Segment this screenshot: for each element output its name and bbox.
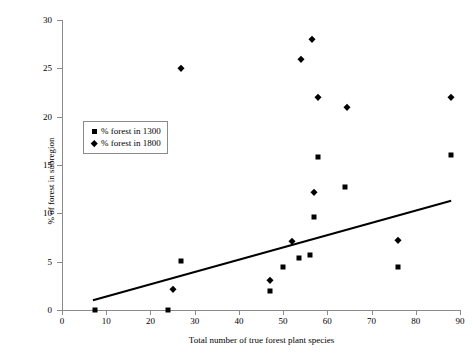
legend-item-forest-1300: % forest in 1300: [89, 125, 161, 137]
x-tick-label: 0: [60, 317, 65, 326]
x-tick: 10: [106, 310, 107, 315]
data-point: [267, 288, 272, 293]
legend-label: % forest in 1300: [101, 126, 161, 137]
scatter-chart: % of forest in subregion Total number of…: [0, 0, 473, 361]
x-tick: 40: [239, 310, 240, 315]
x-tick: 90: [460, 310, 461, 315]
data-point: [449, 153, 454, 158]
x-tick-label: 90: [456, 317, 465, 326]
x-tick-label: 50: [279, 317, 288, 326]
x-tick: 60: [327, 310, 328, 315]
data-point: [396, 265, 401, 270]
legend-item-forest-1800: % forest in 1800: [89, 137, 161, 149]
data-point: [281, 265, 286, 270]
y-tick-label: 10: [43, 209, 52, 218]
x-tick-label: 80: [411, 317, 420, 326]
y-tick-label: 15: [43, 161, 52, 170]
data-point: [179, 258, 184, 263]
data-point: [296, 255, 301, 260]
y-tick-label: 0: [48, 306, 53, 315]
data-point: [312, 215, 317, 220]
x-tick-label: 60: [323, 317, 332, 326]
y-tick-label: 5: [48, 257, 53, 266]
legend-label: % forest in 1800: [101, 138, 161, 149]
x-tick: 70: [372, 310, 373, 315]
data-point: [316, 155, 321, 160]
x-tick: 30: [195, 310, 196, 315]
x-tick-label: 10: [102, 317, 111, 326]
legend: % forest in 1300 % forest in 1800: [83, 121, 168, 154]
y-tick-label: 20: [43, 112, 52, 121]
plot-area: 051015202530 0102030405060708090: [62, 20, 460, 310]
x-tick: 20: [150, 310, 151, 315]
diamond-marker-icon: [89, 141, 99, 146]
x-tick-label: 20: [146, 317, 155, 326]
x-axis-line: [62, 310, 461, 311]
x-tick: 80: [416, 310, 417, 315]
x-tick-label: 30: [190, 317, 199, 326]
x-tick-label: 40: [234, 317, 243, 326]
data-point: [343, 185, 348, 190]
y-tick-label: 30: [43, 16, 52, 25]
x-tick: 0: [62, 310, 63, 315]
data-point: [93, 308, 98, 313]
data-point: [166, 308, 171, 313]
x-tick: 50: [283, 310, 284, 315]
square-marker-icon: [89, 129, 99, 134]
data-point: [307, 252, 312, 257]
x-tick-label: 70: [367, 317, 376, 326]
x-axis-title: Total number of true forest plant specie…: [62, 335, 461, 345]
y-tick-label: 25: [43, 64, 52, 73]
